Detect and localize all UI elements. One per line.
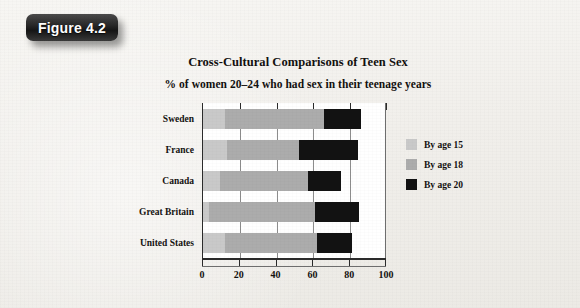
- category-label: Great Britain: [139, 207, 194, 217]
- figure-number-badge: Figure 4.2: [26, 14, 118, 41]
- bar-segment: [203, 202, 209, 222]
- figure-page: Figure 4.2 Cross-Cultural Comparisons of…: [0, 0, 580, 308]
- axis-tick-label: 0: [200, 269, 205, 280]
- bar-row: [203, 171, 385, 191]
- chart-container: Cross-Cultural Comparisons of Teen Sex %…: [136, 55, 536, 290]
- axis-tick-label: 60: [307, 269, 317, 280]
- chart-subtitle: % of women 20–24 who had sex in their te…: [148, 78, 448, 90]
- plot-area: [202, 103, 386, 258]
- chart-title: Cross-Cultural Comparisons of Teen Sex: [148, 55, 448, 70]
- bar-row: [203, 202, 385, 222]
- axis-tick-label: 20: [234, 269, 244, 280]
- chart-legend: By age 15By age 18By age 20: [406, 139, 524, 199]
- bar-row: [203, 140, 385, 160]
- bar-segment: [203, 140, 227, 160]
- category-axis-labels: SwedenFranceCanadaGreat BritainUnited St…: [136, 103, 198, 258]
- tick-mark-bottom: [276, 259, 277, 266]
- legend-swatch: [406, 159, 417, 170]
- category-label: Canada: [162, 176, 194, 186]
- bar-row: [203, 109, 385, 129]
- legend-item: By age 18: [406, 159, 524, 170]
- tick-mark-bottom: [239, 259, 240, 266]
- bar-segment: [203, 171, 220, 191]
- value-axis-tick-labels: 020406080100: [202, 269, 386, 285]
- axis-tick-label: 40: [271, 269, 281, 280]
- figure-number-label: Figure 4.2: [38, 20, 106, 36]
- category-label: Sweden: [163, 114, 194, 124]
- legend-item: By age 15: [406, 139, 524, 150]
- legend-label: By age 18: [424, 160, 463, 170]
- legend-label: By age 15: [424, 140, 463, 150]
- category-label: United States: [140, 238, 194, 248]
- bar-segment: [203, 202, 315, 222]
- legend-label: By age 20: [424, 180, 463, 190]
- legend-swatch: [406, 139, 417, 150]
- tick-mark-bottom: [385, 259, 386, 266]
- tick-mark-top: [386, 103, 387, 110]
- value-axis-ticks: [202, 259, 386, 266]
- axis-tick-label: 100: [379, 269, 394, 280]
- bar-row: [203, 233, 385, 253]
- legend-swatch: [406, 179, 417, 190]
- category-label: France: [166, 145, 195, 155]
- value-axis-baseline: [202, 266, 386, 267]
- plot-region: SwedenFranceCanadaGreat BritainUnited St…: [136, 103, 536, 288]
- tick-mark-bottom: [312, 259, 313, 266]
- bar-segment: [203, 233, 225, 253]
- tick-mark-bottom: [349, 259, 350, 266]
- tick-mark-bottom: [202, 259, 203, 266]
- bar-segment: [203, 109, 225, 129]
- legend-item: By age 20: [406, 179, 524, 190]
- axis-tick-label: 80: [344, 269, 354, 280]
